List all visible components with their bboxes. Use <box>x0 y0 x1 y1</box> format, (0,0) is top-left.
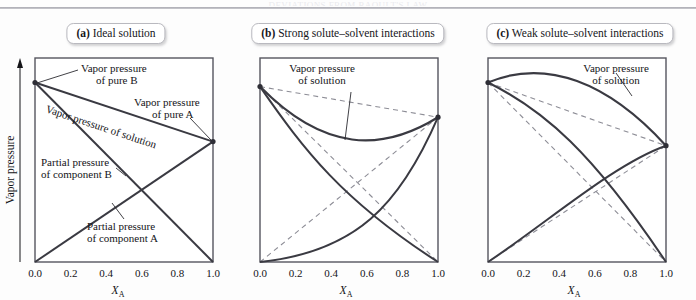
x-tick-4: 0.8 <box>624 267 638 279</box>
x-axis-label-sub-b: A <box>347 290 353 299</box>
annotation-vapor-pressure-of-solution: Vapor pressure of solution <box>289 62 355 86</box>
x-tick-3: 0.6 <box>360 267 374 279</box>
annotation-pure-a-line2: of pure A <box>152 108 194 120</box>
annotation-partial-b-line2: of component B <box>41 168 112 180</box>
annotation-pure-a-line1: Vapor pressure <box>134 96 200 108</box>
x-tick-1: 0.2 <box>517 267 531 279</box>
panel-b-plot: Vapor pressure of solution 0.0 0.2 0.4 0… <box>232 0 464 300</box>
x-tick-2: 0.4 <box>552 267 566 279</box>
x-axis-label-c: XA <box>567 284 581 299</box>
y-axis-label: Vapor pressure <box>4 136 17 205</box>
panel-a: (a) Ideal solution Vapor pressure <box>0 0 232 300</box>
x-axis-label-b: XA <box>339 284 353 299</box>
annotation-partial-b-line1: Partial pressure <box>41 156 109 168</box>
x-axis-label-sub-a: A <box>119 290 125 299</box>
x-tick-2: 0.4 <box>324 267 338 279</box>
x-tick-0: 0.0 <box>481 267 495 279</box>
x-axis-ticks-b: 0.0 0.2 0.4 0.6 0.8 1.0 <box>253 267 445 279</box>
x-tick-3: 0.6 <box>588 267 602 279</box>
marker-pure-a <box>663 143 668 148</box>
annotation-solution-line2-c: of solution <box>592 74 640 86</box>
x-axis-ticks-a: 0.0 0.2 0.4 0.6 0.8 1.0 <box>28 267 220 279</box>
x-tick-5: 1.0 <box>206 267 220 279</box>
annotation-partial-a-line1: Partial pressure <box>87 220 155 232</box>
x-tick-3: 0.6 <box>135 267 149 279</box>
annotation-solution-line1-b: Vapor pressure <box>289 62 355 74</box>
annotation-partial-pressure-component-a: Partial pressure of component A <box>87 220 158 244</box>
plot-frame <box>260 58 438 262</box>
panel-c: (c) Weak solute–solvent interactions Vap… <box>464 0 696 300</box>
annotation-solution-line2-b: of solution <box>298 74 346 86</box>
x-tick-5: 1.0 <box>431 267 445 279</box>
panel-b: (b) Strong solute–solvent interactions <box>232 0 464 300</box>
x-tick-2: 0.4 <box>99 267 113 279</box>
annotation-vapor-pressure-of-solution: Vapor pressure of solution <box>583 62 649 86</box>
x-axis-ticks-c: 0.0 0.2 0.4 0.6 0.8 1.0 <box>481 267 673 279</box>
annotation-solution-line1-c: Vapor pressure <box>583 62 649 74</box>
marker-pure-b <box>485 80 490 85</box>
annotation-partial-a-line2: of component A <box>87 232 158 244</box>
y-axis-arrow <box>17 58 23 262</box>
panel-a-plot: Vapor pressure Vapor pressure <box>0 0 232 300</box>
annotation-pure-b-line2: of pure B <box>96 74 138 86</box>
marker-pure-a <box>435 115 440 120</box>
marker-pure-b <box>257 84 262 89</box>
x-tick-5: 1.0 <box>659 267 673 279</box>
annotation-partial-pressure-component-b: Partial pressure of component B <box>41 156 112 180</box>
marker-pure-b <box>32 80 37 85</box>
x-tick-0: 0.0 <box>253 267 267 279</box>
x-axis-label-sub-c: A <box>575 290 581 299</box>
x-tick-1: 0.2 <box>64 267 78 279</box>
panel-c-plot: Vapor pressure of solution 0.0 0.2 0.4 0… <box>464 0 696 300</box>
annotation-pure-b-line1: Vapor pressure <box>81 62 147 74</box>
x-tick-4: 0.8 <box>396 267 410 279</box>
x-tick-0: 0.0 <box>28 267 42 279</box>
x-axis-label-a: XA <box>111 284 125 299</box>
x-tick-1: 0.2 <box>289 267 303 279</box>
plot-frame <box>488 58 666 262</box>
x-tick-4: 0.8 <box>171 267 185 279</box>
figure-root: DEVIATIONS FROM RAOULT'S LAW (a) Ideal s… <box>0 0 696 300</box>
